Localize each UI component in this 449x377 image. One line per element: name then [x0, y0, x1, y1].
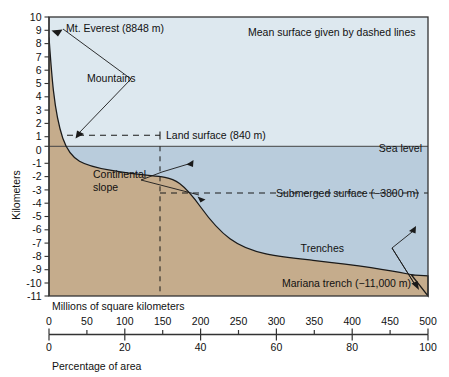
land-surface-label: Land surface (840 m)	[166, 129, 266, 141]
y-tick-7: 7	[36, 51, 49, 63]
y-tick-label: -3	[32, 184, 41, 196]
x-top-tick-label: 300	[268, 315, 286, 327]
x-bottom-tick-label: 100	[419, 341, 437, 353]
y-tick-minus8: -8	[32, 250, 49, 262]
x-top-tick-label: 100	[116, 315, 134, 327]
y-tick-label: -10	[26, 277, 41, 289]
y-tick-label: 5	[36, 77, 42, 89]
y-tick-label: 0	[36, 144, 42, 156]
mean-surface-note: Mean surface given by dashed lines	[248, 26, 416, 38]
continental-slope-label-line2: slope	[93, 181, 118, 193]
x-top-tick-label: 200	[192, 315, 210, 327]
y-tick-5: 5	[36, 77, 49, 89]
x-top-tick-label: 450	[381, 315, 399, 327]
y-tick-label: -4	[32, 197, 41, 209]
x-axis-title-top: Millions of square kilometers	[52, 300, 184, 312]
chart-svg: 10 9 8 7 6 5 4 3	[0, 0, 449, 377]
trenches-label: Trenches	[301, 242, 344, 254]
y-tick-10: 10	[30, 11, 49, 23]
continental-slope-label-line1: Continental	[93, 168, 146, 180]
x-bottom-tick-label: 80	[346, 341, 358, 353]
y-tick-minus1: -1	[32, 157, 49, 169]
y-tick-label: -6	[32, 223, 41, 235]
y-tick-8: 8	[36, 37, 49, 49]
y-tick-label: 8	[36, 37, 42, 49]
y-tick-minus2: -2	[32, 170, 49, 182]
y-tick-3: 3	[36, 104, 49, 116]
mariana-trench-label: Mariana trench (−11,000 m)	[282, 277, 411, 289]
y-tick-label: 10	[30, 11, 42, 23]
y-tick-minus10: -10	[26, 277, 49, 289]
y-tick-minus9: -9	[32, 263, 49, 275]
x-top-tick-label: 250	[230, 315, 248, 327]
y-tick-4: 4	[36, 90, 49, 102]
y-tick-0: 0	[36, 144, 49, 156]
x-axis-scales: 0 50 100 150 200 250 300 350 400 450 500…	[46, 315, 437, 353]
y-tick-label: 7	[36, 51, 42, 63]
submerged-surface-label: Submerged surface (−3800 m)	[276, 187, 419, 199]
y-tick-label: -7	[32, 237, 41, 249]
hypsographic-curve-figure: 10 9 8 7 6 5 4 3	[0, 0, 449, 377]
y-tick-label: 1	[36, 130, 42, 142]
y-tick-label: 6	[36, 64, 42, 76]
x-top-tick-label: 500	[419, 315, 437, 327]
y-tick-minus5: -5	[32, 210, 49, 222]
sea-level-label: Sea level	[379, 142, 422, 154]
y-tick-2: 2	[36, 117, 49, 129]
x-axis-title-bottom: Percentage of area	[52, 360, 141, 372]
x-top-tick-label: 150	[154, 315, 172, 327]
x-top-tick-label: 50	[81, 315, 93, 327]
mt-everest-label: Mt. Everest (8848 m)	[66, 22, 164, 34]
y-axis: 10 9 8 7 6 5 4 3	[26, 11, 49, 302]
y-tick-label: -11	[27, 290, 42, 302]
x-bottom-tick-label: 0	[46, 341, 52, 353]
x-top-tick-label: 350	[306, 315, 324, 327]
y-tick-minus3: -3	[32, 184, 49, 196]
y-tick-minus6: -6	[32, 223, 49, 235]
y-tick-label: 4	[36, 90, 42, 102]
x-bottom-tick-label: 40	[195, 341, 207, 353]
mountains-label: Mountains	[87, 72, 135, 84]
y-tick-1: 1	[36, 130, 49, 142]
y-tick-label: -1	[32, 157, 41, 169]
y-tick-label: 3	[36, 104, 42, 116]
y-tick-minus4: -4	[32, 197, 49, 209]
y-tick-label: -9	[32, 263, 41, 275]
x-top-tick-label: 0	[46, 315, 52, 327]
y-tick-label: 2	[36, 117, 42, 129]
y-tick-minus11: -11	[27, 290, 49, 302]
x-top-tick-label: 400	[343, 315, 361, 327]
y-tick-minus7: -7	[32, 237, 49, 249]
x-bottom-tick-label: 20	[119, 341, 131, 353]
y-tick-label: -5	[32, 210, 41, 222]
x-axis-top-ticks: 0 50 100 150 200 250 300 350 400 450 500	[46, 315, 437, 335]
y-tick-9: 9	[36, 24, 49, 36]
y-tick-label: 9	[36, 24, 42, 36]
y-tick-label: -8	[32, 250, 41, 262]
x-axis-bottom-ticks: 0 20 40 60 80 100	[46, 335, 437, 354]
y-axis-title: Kilometers	[10, 170, 22, 220]
y-tick-label: -2	[32, 170, 41, 182]
x-bottom-tick-label: 60	[271, 341, 283, 353]
y-tick-6: 6	[36, 64, 49, 76]
